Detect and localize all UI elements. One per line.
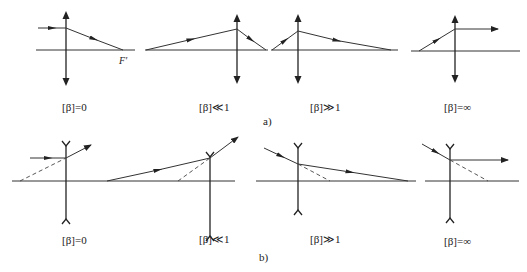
light-ray xyxy=(264,148,408,181)
diverging-lens-icon xyxy=(62,141,70,224)
converging-lens-icon xyxy=(295,14,302,84)
optics-diagram: F′ [β]=0 [β]≪1 xyxy=(0,0,527,272)
panel-b2: [β]≪1 xyxy=(107,137,238,245)
panel-label: [β]≪1 xyxy=(199,233,229,245)
panel-label: [β]≫1 xyxy=(310,233,340,245)
panel-label: [β]=0 xyxy=(62,234,87,246)
panel-label: [β]≫1 xyxy=(310,101,340,113)
figure-caption-a: a) xyxy=(263,115,272,128)
panel-a4: [β]=∞ xyxy=(411,15,520,113)
part-b: [β]=0 [β]≪1 xyxy=(12,137,519,264)
light-ray xyxy=(419,29,498,51)
converging-lens-icon xyxy=(234,14,241,84)
converging-lens-icon xyxy=(63,11,70,86)
light-ray xyxy=(38,28,123,50)
panel-label: [β]≪1 xyxy=(199,101,229,113)
panel-label: [β]=∞ xyxy=(444,235,471,247)
panel-b1: [β]=0 xyxy=(12,141,235,246)
panel-a3: [β]≫1 xyxy=(271,14,398,113)
diverging-lens-icon xyxy=(446,144,454,223)
light-ray xyxy=(20,145,91,181)
diverging-lens-icon xyxy=(294,143,302,215)
light-ray xyxy=(107,137,238,181)
focal-point-label: F′ xyxy=(118,55,128,66)
figure-caption-b: b) xyxy=(259,251,269,264)
panel-b4: [β]=∞ xyxy=(422,144,519,247)
panel-b3: [β]≫1 xyxy=(256,143,416,245)
light-ray xyxy=(272,31,391,50)
light-ray xyxy=(146,29,266,50)
panel-a2: [β]≪1 xyxy=(145,14,268,113)
light-ray xyxy=(422,144,508,181)
converging-lens-icon xyxy=(452,15,459,83)
diverging-lens-icon xyxy=(206,152,214,241)
part-a: F′ [β]=0 [β]≪1 xyxy=(36,11,520,128)
panel-a1: F′ [β]=0 xyxy=(36,11,135,113)
panel-label: [β]=∞ xyxy=(444,101,471,113)
panel-label: [β]=0 xyxy=(62,101,87,113)
